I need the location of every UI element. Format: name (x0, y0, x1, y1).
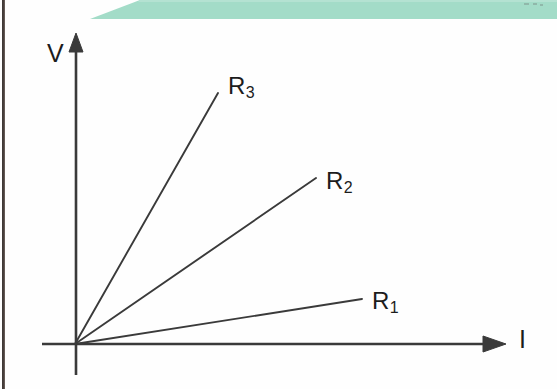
line-r1 (75, 299, 362, 344)
line-label-r1-subscript: 1 (389, 299, 398, 316)
line-label-r3: R3 (228, 74, 255, 101)
line-label-r1-letter: R (372, 287, 389, 314)
y-axis-label: V (47, 41, 64, 66)
line-label-r2-subscript: 2 (343, 179, 352, 196)
iv-characteristic-plot (0, 0, 557, 389)
line-r2 (75, 178, 316, 344)
x-axis-label: I (519, 327, 526, 352)
resistance-lines (75, 93, 362, 344)
line-label-r2: R2 (326, 169, 353, 196)
line-label-r3-letter: R (228, 72, 245, 99)
x-axis-arrowhead (483, 336, 506, 352)
y-axis-arrowhead (69, 33, 83, 52)
line-label-r3-subscript: 3 (245, 84, 254, 101)
line-r3 (75, 93, 218, 344)
line-label-r2-letter: R (326, 167, 343, 194)
figure-canvas: V I R3 R2 R1 (0, 0, 557, 389)
y-axis (69, 33, 83, 375)
line-label-r1: R1 (372, 289, 399, 316)
